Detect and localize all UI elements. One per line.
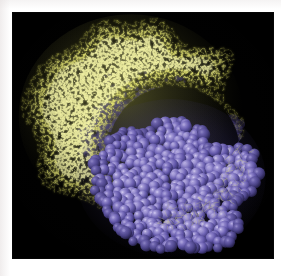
molecular-scene [13, 13, 273, 258]
figure-root [0, 0, 281, 276]
molecular-render-panel [13, 13, 273, 258]
